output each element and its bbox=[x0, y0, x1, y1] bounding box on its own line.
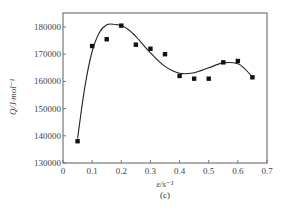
data-point-marker bbox=[134, 42, 138, 46]
y-tick-label: 130000 bbox=[34, 158, 62, 168]
data-point-marker bbox=[236, 59, 240, 63]
data-points bbox=[75, 23, 254, 143]
data-point-marker bbox=[250, 75, 254, 79]
data-point-marker bbox=[163, 52, 167, 56]
x-axis-ticks: 00.10.20.30.40.50.60.7 bbox=[61, 160, 273, 176]
plot-frame bbox=[63, 13, 267, 163]
y-tick-label: 170000 bbox=[34, 49, 62, 59]
y-tick-label: 150000 bbox=[34, 104, 62, 114]
data-point-marker bbox=[207, 76, 211, 80]
x-tick-label: 0.7 bbox=[261, 166, 273, 176]
panel-label: (c) bbox=[160, 190, 170, 200]
data-point-marker bbox=[90, 44, 94, 48]
x-tick-label: 0.5 bbox=[203, 166, 215, 176]
data-point-marker bbox=[119, 23, 123, 27]
data-point-marker bbox=[177, 74, 181, 78]
y-axis-ticks: 130000140000150000160000170000180000 bbox=[34, 22, 66, 168]
x-tick-label: 0.1 bbox=[87, 166, 98, 176]
y-tick-label: 160000 bbox=[34, 76, 62, 86]
data-point-marker bbox=[221, 60, 225, 64]
x-tick-label: 0.3 bbox=[145, 166, 157, 176]
plot-border bbox=[63, 13, 267, 163]
x-tick-label: 0.4 bbox=[174, 166, 186, 176]
x-axis-label: ε/s⁻¹ bbox=[157, 179, 174, 189]
y-tick-label: 140000 bbox=[34, 131, 62, 141]
fit-curve bbox=[78, 24, 253, 139]
data-point-marker bbox=[192, 76, 196, 80]
y-tick-label: 180000 bbox=[34, 22, 62, 32]
data-point-marker bbox=[105, 37, 109, 41]
data-point-marker bbox=[148, 47, 152, 51]
data-point-marker bbox=[75, 139, 79, 143]
x-tick-label: 0.2 bbox=[116, 166, 127, 176]
chart: 130000140000150000160000170000180000 00.… bbox=[0, 0, 286, 213]
x-tick-label: 0.6 bbox=[232, 166, 244, 176]
x-tick-label: 0 bbox=[61, 166, 66, 176]
y-axis-label: Q/J·mol⁻¹ bbox=[8, 79, 18, 115]
